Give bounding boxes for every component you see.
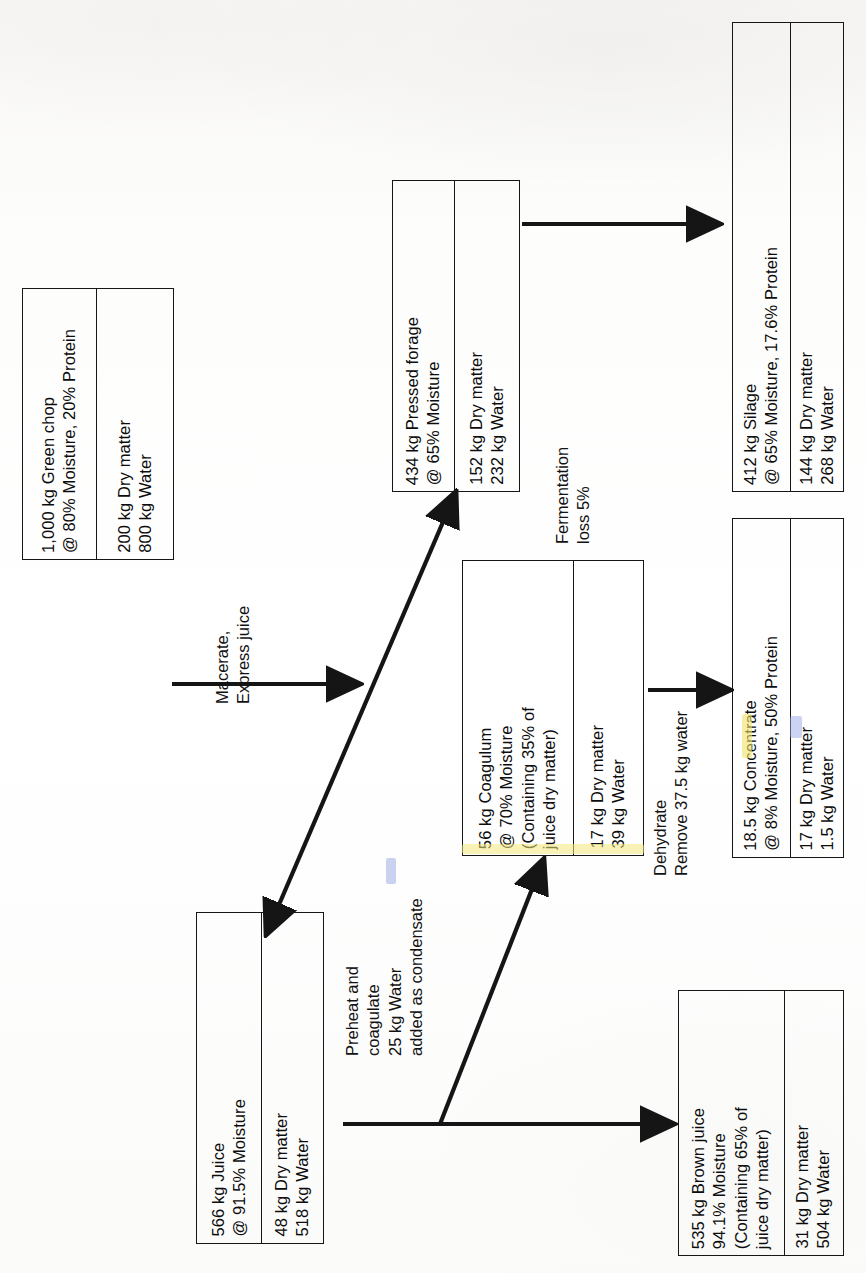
node-silage-left-text: 412 kg Silage @ 65% Moisture, 17.6% Prot… [740,247,783,485]
process-label-fermentation: Fermentation loss 5% [552,392,595,544]
node-juice-right-text: 48 kg Dry matter 518 kg Water [271,1113,314,1237]
node-pressed-forage-right-cell: 152 kg Dry matter 232 kg Water [454,181,519,491]
node-coagulum-left-cell: 56 kg Coagulum @ 70% Moisture (Containin… [463,561,573,855]
node-brown-juice-right-text: 31 kg Dry matter 504 kg Water [792,1125,835,1249]
node-pressed-forage-left-cell: 434 kg Pressed forage @ 65% Moisture [393,181,454,491]
node-pressed-forage-left-text: 434 kg Pressed forage @ 65% Moisture [402,317,445,485]
node-concentrate-right-text: 17 kg Dry matter 1.5 kg Water [796,727,839,851]
node-brown-juice[interactable]: 535 kg Brown juice 94.1% Moisture (Conta… [678,990,844,1256]
node-coagulum-right-cell: 17 kg Dry matter 39 kg Water [573,561,643,855]
node-brown-juice-left-text: 535 kg Brown juice 94.1% Moisture (Conta… [688,1107,774,1249]
node-brown-juice-right-cell: 31 kg Dry matter 504 kg Water [784,991,843,1255]
process-label-macerate: Macerate, Express juice [212,548,255,704]
node-juice-left-text: 566 kg Juice @ 91.5% Moisture [208,1099,251,1237]
node-concentrate-left-cell: 18.5 kg Concentrate @ 8% Moisture, 50% P… [733,519,790,857]
node-concentrate-right-cell: 17 kg Dry matter 1.5 kg Water [790,519,843,857]
node-juice-left-cell: 566 kg Juice @ 91.5% Moisture [197,913,261,1243]
node-coagulum-left-text: 56 kg Coagulum @ 70% Moisture (Containin… [475,707,561,849]
node-green-chop-right-cell: 200 kg Dry matter 800 kg Water [96,289,173,559]
flowchart-page: 1,000 kg Green chop @ 80% Moisture, 20% … [0,0,866,1273]
process-label-preheat-coagulate: Preheat and coagulate 25 kg Water added … [342,766,428,1056]
process-label-dehydrate: Dehydrate Remove 37.5 kg water [650,676,693,876]
node-juice-right-cell: 48 kg Dry matter 518 kg Water [261,913,323,1243]
node-silage-left-cell: 412 kg Silage @ 65% Moisture, 17.6% Prot… [733,23,790,491]
arrow-rail-to-coagulum [440,861,543,1124]
node-pressed-forage-right-text: 152 kg Dry matter 232 kg Water [466,352,509,485]
node-green-chop-right-text: 200 kg Dry matter 800 kg Water [114,420,157,553]
node-coagulum[interactable]: 56 kg Coagulum @ 70% Moisture (Containin… [462,560,644,856]
node-juice[interactable]: 566 kg Juice @ 91.5% Moisture 48 kg Dry … [196,912,324,1244]
node-silage-right-cell: 144 kg Dry matter 268 kg Water [790,23,843,491]
node-coagulum-right-text: 17 kg Dry matter 39 kg Water [587,725,630,849]
node-green-chop-left-cell: 1,000 kg Green chop @ 80% Moisture, 20% … [23,289,96,559]
node-green-chop-left-text: 1,000 kg Green chop @ 80% Moisture, 20% … [38,329,81,553]
node-concentrate-left-text: 18.5 kg Concentrate @ 8% Moisture, 50% P… [740,636,783,851]
node-concentrate[interactable]: 18.5 kg Concentrate @ 8% Moisture, 50% P… [732,518,844,858]
node-brown-juice-left-cell: 535 kg Brown juice 94.1% Moisture (Conta… [679,991,784,1255]
node-silage-right-text: 144 kg Dry matter 268 kg Water [796,352,839,485]
node-green-chop[interactable]: 1,000 kg Green chop @ 80% Moisture, 20% … [22,288,174,560]
node-pressed-forage[interactable]: 434 kg Pressed forage @ 65% Moisture 152… [392,180,520,492]
node-silage[interactable]: 412 kg Silage @ 65% Moisture, 17.6% Prot… [732,22,844,492]
